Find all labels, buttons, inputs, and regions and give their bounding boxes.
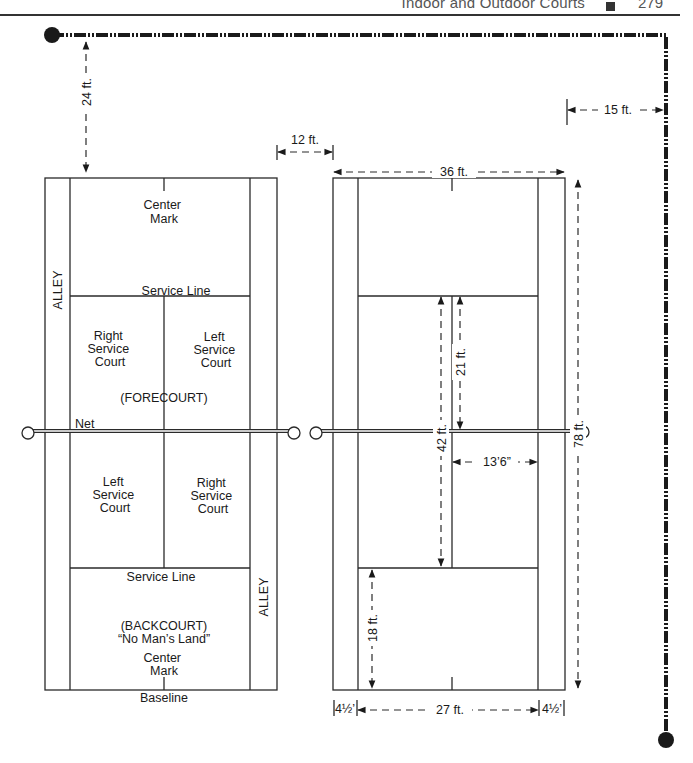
label-center-mark-bottom: Center Mark <box>143 651 184 678</box>
label-alley-left: ALLEY <box>51 270 65 310</box>
dim-service-to-net-label: 21 ft. <box>454 348 468 376</box>
label-service-line-top: Service Line <box>142 284 211 298</box>
label-right-service-court-top: Right Service Court <box>87 329 132 369</box>
dim-alley-right-label: 4½’ <box>542 702 562 716</box>
dim-singles-width-label: 27 ft. <box>436 703 464 717</box>
label-left-service-court-bottom: Left Service Court <box>92 475 137 515</box>
label-service-line-bottom: Service Line <box>127 570 196 584</box>
fence-post-bottom-right <box>658 732 674 748</box>
dim-service-court-width-label: 13’6” <box>483 455 511 469</box>
label-baseline: Baseline <box>140 691 188 705</box>
label-forecourt: (FORECOURT) <box>120 391 207 405</box>
dim-side-clearance-label: 15 ft. <box>604 103 632 117</box>
dim-court-width-label: 36 ft. <box>440 165 468 179</box>
label-backcourt: (BACKCOURT) <box>121 619 208 633</box>
fence-post-top-left <box>44 27 60 43</box>
label-alley-right: ALLEY <box>257 577 271 617</box>
net-post-left <box>22 427 34 439</box>
label-no-mans-land: “No Man’s Land” <box>118 632 210 646</box>
tennis-court-diagram: Center Mark Service Line ALLEY Right Ser… <box>0 0 693 763</box>
net-post-right <box>288 427 300 439</box>
right-court <box>310 178 589 690</box>
left-court: Center Mark Service Line ALLEY Right Ser… <box>22 178 300 705</box>
dim-between-courts-label: 12 ft. <box>291 133 319 147</box>
label-right-service-court-bottom: Right Service Court <box>190 476 235 516</box>
dimensions: 24 ft. 12 ft. 36 ft. 15 ft. 42 ft. 21 ft… <box>78 42 663 717</box>
net-post-left <box>310 427 322 439</box>
dim-alley-left-label: 4½’ <box>335 702 355 716</box>
dim-backcourt-depth-label: 18 ft. <box>366 614 380 642</box>
label-net: Net <box>75 417 95 431</box>
dim-service-line-span-label: 42 ft. <box>435 424 449 452</box>
dim-court-length-label: 78 ft. <box>572 420 586 448</box>
dim-back-clearance-label: 24 ft. <box>80 78 94 106</box>
label-center-mark-top: Center Mark <box>143 198 184 226</box>
doubles-sideline-box <box>45 178 277 690</box>
label-left-service-court-top: Left Service Court <box>193 330 238 370</box>
